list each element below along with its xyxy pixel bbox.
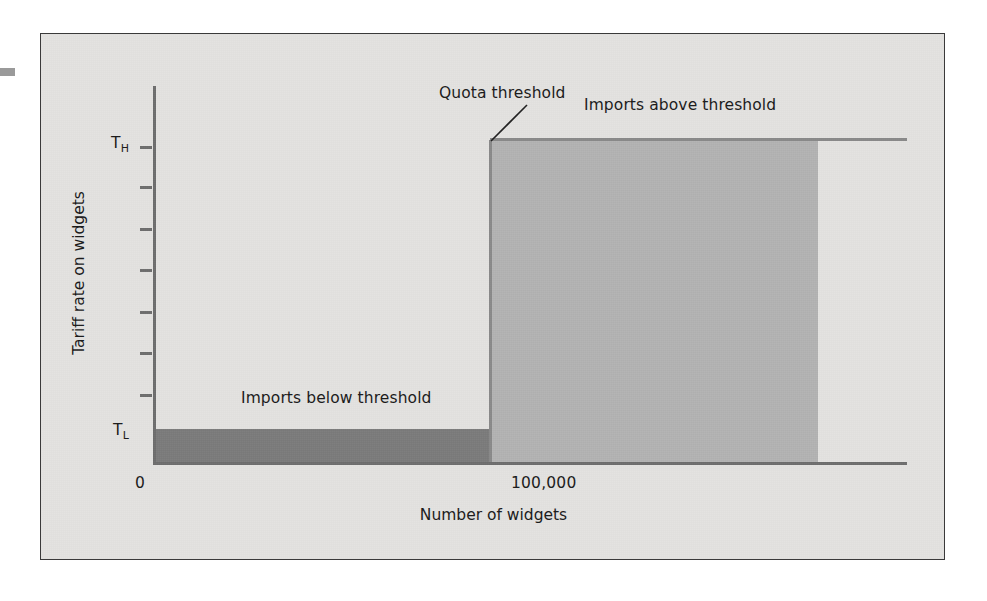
y-axis-tick xyxy=(140,228,152,231)
y-axis-label-low-tariff: TL xyxy=(113,421,129,442)
y-axis-label-low-tariff-subscript: L xyxy=(123,429,129,442)
y-axis-label-high-tariff-base: T xyxy=(111,134,121,152)
page-edge-dash xyxy=(0,68,15,76)
quota-threshold-step-riser xyxy=(489,140,492,463)
series-region-imports-below-threshold xyxy=(154,429,490,463)
y-axis-tick xyxy=(140,269,152,272)
x-axis-tick-label-origin: 0 xyxy=(135,474,145,492)
y-axis-tick xyxy=(140,146,152,149)
x-axis-line xyxy=(153,462,907,465)
x-axis-title: Number of widgets xyxy=(41,506,946,524)
y-axis-label-high-tariff-subscript: H xyxy=(121,142,129,155)
y-axis-tick xyxy=(140,352,152,355)
y-axis-title: Tariff rate on widgets xyxy=(70,143,88,403)
y-axis-line xyxy=(153,86,156,464)
annotation-imports-above-threshold: Imports above threshold xyxy=(584,96,776,114)
annotation-quota-threshold: Quota threshold xyxy=(439,84,566,102)
x-axis-tick-label-quota: 100,000 xyxy=(511,474,577,492)
y-axis-tick xyxy=(140,311,152,314)
y-axis-tick xyxy=(140,186,152,189)
y-axis-tick xyxy=(140,394,152,397)
series-region-imports-above-threshold xyxy=(490,140,818,463)
high-tariff-level-rule xyxy=(490,138,907,141)
chart-plot-area: TH TL 0 100,000 Number of widgets Tariff… xyxy=(41,34,946,561)
figure-frame: TH TL 0 100,000 Number of widgets Tariff… xyxy=(40,33,945,560)
y-axis-label-low-tariff-base: T xyxy=(113,421,123,439)
y-axis-label-high-tariff: TH xyxy=(111,134,129,155)
annotation-imports-below-threshold: Imports below threshold xyxy=(241,389,432,407)
